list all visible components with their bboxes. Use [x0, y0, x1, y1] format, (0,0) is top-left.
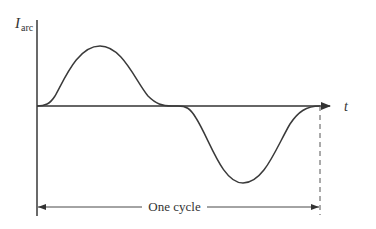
x-axis-label: t: [344, 99, 349, 114]
cycle-label: One cycle: [148, 199, 201, 214]
arc-current-diagram: Iarc t One cycle: [0, 0, 376, 229]
y-axis-label: Iarc: [14, 15, 34, 33]
arc-current-waveform: [37, 46, 320, 183]
